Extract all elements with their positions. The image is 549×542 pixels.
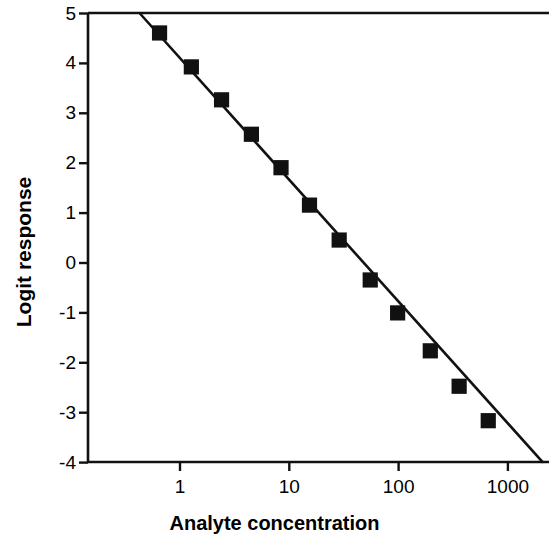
x-axis-title: Analyte concentration bbox=[0, 512, 549, 535]
y-tick-label: -4 bbox=[30, 452, 76, 474]
y-tick-label: 1 bbox=[30, 202, 76, 224]
x-tick-label: 10 bbox=[279, 476, 300, 498]
y-tick-label: -1 bbox=[30, 302, 76, 324]
data-point-marker bbox=[363, 272, 378, 287]
data-point-marker bbox=[214, 92, 229, 107]
logit-log-calibration-plot bbox=[0, 0, 549, 542]
y-tick-label: -3 bbox=[30, 402, 76, 424]
data-point-marker bbox=[273, 160, 288, 175]
data-point-marker bbox=[302, 198, 317, 213]
chart-figure: 543210-1-2-3-4 1101001000 Logit response… bbox=[0, 0, 549, 542]
y-tick-label: 2 bbox=[30, 152, 76, 174]
data-point-marker bbox=[244, 127, 259, 142]
data-point-marker bbox=[423, 343, 438, 358]
y-axis-ticks bbox=[79, 14, 88, 463]
axis-spines bbox=[88, 13, 549, 462]
data-point-marker bbox=[332, 232, 347, 247]
y-tick-label: 5 bbox=[30, 3, 76, 25]
x-axis-ticks bbox=[180, 462, 508, 471]
y-tick-label: 3 bbox=[30, 102, 76, 124]
data-point-marker bbox=[452, 379, 467, 394]
y-axis-title: Logit response bbox=[12, 132, 36, 372]
data-point-marker bbox=[152, 25, 167, 40]
y-tick-label: 0 bbox=[30, 252, 76, 274]
data-point-marker bbox=[390, 305, 405, 320]
x-tick-label: 100 bbox=[383, 476, 415, 498]
data-point-marker bbox=[184, 59, 199, 74]
x-tick-label: 1000 bbox=[487, 476, 529, 498]
y-tick-label: -2 bbox=[30, 352, 76, 374]
x-tick-label: 1 bbox=[175, 476, 186, 498]
data-point-marker bbox=[481, 413, 496, 428]
y-tick-label: 4 bbox=[30, 52, 76, 74]
